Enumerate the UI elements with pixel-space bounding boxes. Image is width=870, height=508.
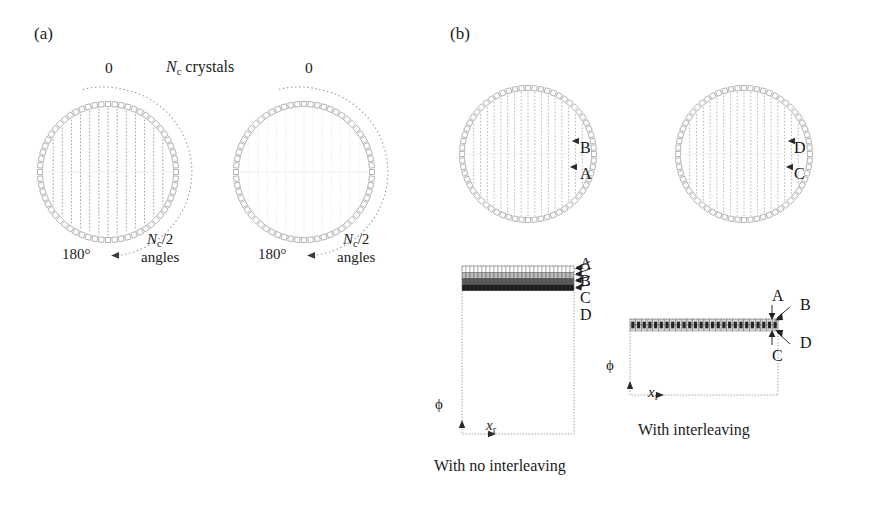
angle-180-label-1: 180°: [258, 246, 287, 263]
panel-label-b: (b): [450, 24, 470, 44]
ring-angle-0-svg: [26, 84, 226, 274]
figure-root: (a) 0 Nc crystals 0 180° Nc/2 angles 180…: [0, 0, 870, 508]
ring-interleave: [668, 78, 828, 238]
ring-no-interleave-svg: [452, 78, 612, 238]
sinogram-xr-axis-label-right: xr: [648, 384, 658, 402]
xr-subscript-right: r: [655, 391, 659, 402]
nc-half-angles-label-1: Nc/2 angles: [337, 231, 375, 265]
nc-crystals-word: crystals: [181, 58, 234, 75]
sinogram-no-interleaving: [452, 258, 582, 450]
ring-marker-b: B: [580, 139, 591, 157]
caption-with-interleaving: With interleaving: [638, 421, 750, 439]
ring-angle-1: [222, 84, 422, 274]
sinogram-phi-axis-label-right: ϕ: [606, 357, 614, 374]
zero-label-right: 0: [305, 59, 313, 77]
ring-no-interleave: [452, 78, 612, 238]
xr-symbol-right: x: [648, 384, 655, 400]
nc-half-tail-0: /2: [162, 231, 174, 247]
sinogram-marker-a-right: A: [772, 287, 784, 305]
sinogram-no-interleaving-svg: [452, 258, 582, 450]
ring-angle-1-svg: [222, 84, 422, 274]
zero-label-left: 0: [105, 59, 113, 77]
sinogram-xr-axis-label-left: xr: [486, 417, 496, 435]
nc-crystals-symbol: N: [166, 58, 177, 75]
sinogram-marker-a-left: A: [580, 255, 592, 273]
ring-marker-a: A: [580, 165, 592, 183]
caption-no-interleaving: With no interleaving: [434, 457, 566, 475]
ring-interleave-svg: [668, 78, 828, 238]
nc-half-angles-label-0: Nc/2 angles: [141, 231, 179, 265]
sinogram-marker-d-right: D: [800, 334, 812, 352]
ring-marker-c: C: [794, 165, 805, 183]
nc-half-word-0: angles: [141, 249, 179, 265]
sinogram-phi-axis-label-left: ϕ: [435, 396, 443, 413]
panel-label-a: (a): [34, 24, 53, 44]
nc-crystals-label: Nc crystals: [166, 58, 234, 77]
ring-marker-d: D: [794, 139, 806, 157]
angle-180-label-0: 180°: [62, 246, 91, 263]
xr-subscript-left: r: [493, 424, 497, 435]
nc-half-symbol-1: N: [343, 231, 353, 247]
sinogram-marker-b-left: B: [580, 272, 591, 290]
nc-half-tail-1: /2: [358, 231, 370, 247]
sinogram-marker-c-right: C: [772, 347, 783, 365]
sinogram-marker-c-left: C: [580, 289, 591, 307]
sinogram-marker-b-right: B: [800, 296, 811, 314]
ring-angle-0: [26, 84, 226, 274]
nc-half-symbol-0: N: [147, 231, 157, 247]
sinogram-marker-d-left: D: [580, 306, 592, 324]
nc-half-word-1: angles: [337, 249, 375, 265]
xr-symbol-left: x: [486, 417, 493, 433]
